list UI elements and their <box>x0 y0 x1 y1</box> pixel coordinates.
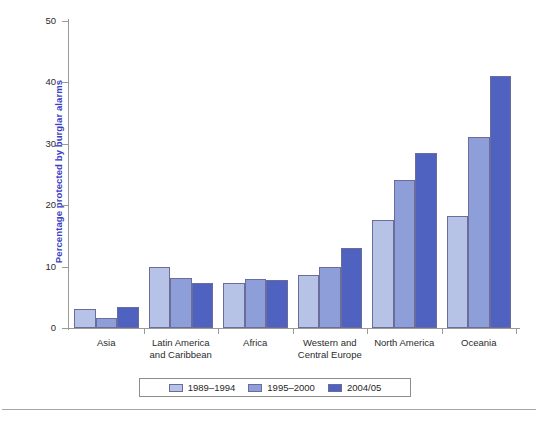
legend-swatch <box>169 384 183 392</box>
y-tick-label: 30 <box>32 139 56 149</box>
y-tick-mark <box>62 82 68 83</box>
legend-label: 1989–1994 <box>188 383 236 393</box>
y-tick-label: 0 <box>32 323 56 333</box>
bar-group <box>223 21 288 328</box>
legend-entry: 1995–2000 <box>248 383 315 393</box>
legend-label: 2004/05 <box>347 383 381 393</box>
bar <box>490 76 512 328</box>
legend-swatch <box>248 384 262 392</box>
y-axis-title: Percentage protected by burglar alarms <box>53 22 64 322</box>
bar <box>468 137 490 328</box>
y-tick-mark <box>62 144 68 145</box>
bar <box>447 216 469 328</box>
bar <box>298 275 320 328</box>
y-tick-label: 40 <box>32 77 56 87</box>
y-tick-mark <box>62 205 68 206</box>
legend-entry: 1989–1994 <box>169 383 236 393</box>
bar <box>266 280 288 328</box>
x-category-label: Oceania <box>434 337 525 349</box>
bar <box>149 267 171 328</box>
y-tick-label: 50 <box>32 16 56 26</box>
x-tick-mark <box>144 329 145 334</box>
bar <box>170 278 192 328</box>
chart-figure: Percentage protected by burglar alarms 0… <box>0 0 538 422</box>
bar <box>394 180 416 328</box>
y-tick-label: 20 <box>32 200 56 210</box>
bar <box>223 283 245 328</box>
x-axis-line <box>68 328 520 329</box>
bar <box>96 318 118 328</box>
bar <box>74 309 96 328</box>
bar <box>117 307 139 328</box>
x-tick-mark <box>516 329 517 334</box>
bar-group <box>298 21 363 328</box>
x-tick-mark <box>442 329 443 334</box>
bar-group <box>74 21 139 328</box>
bar <box>192 283 214 328</box>
x-tick-mark <box>293 329 294 334</box>
footer-divider <box>2 409 536 410</box>
bar <box>372 220 394 328</box>
x-tick-mark <box>218 329 219 334</box>
bar <box>245 279 267 328</box>
bar <box>319 267 341 328</box>
bar-group <box>447 21 512 328</box>
y-tick-mark <box>62 267 68 268</box>
bar <box>415 153 437 328</box>
legend-entry: 2004/05 <box>328 383 381 393</box>
bar-group <box>372 21 437 328</box>
plot-area <box>69 21 516 328</box>
y-tick-mark <box>62 21 68 22</box>
legend-label: 1995–2000 <box>267 383 315 393</box>
bar <box>341 248 363 328</box>
chart-legend: 1989–19941995–20002004/05 <box>139 378 411 397</box>
legend-swatch <box>328 384 342 392</box>
y-tick-label: 10 <box>32 262 56 272</box>
y-tick-mark <box>62 328 68 329</box>
bar-group <box>149 21 214 328</box>
x-tick-mark <box>367 329 368 334</box>
